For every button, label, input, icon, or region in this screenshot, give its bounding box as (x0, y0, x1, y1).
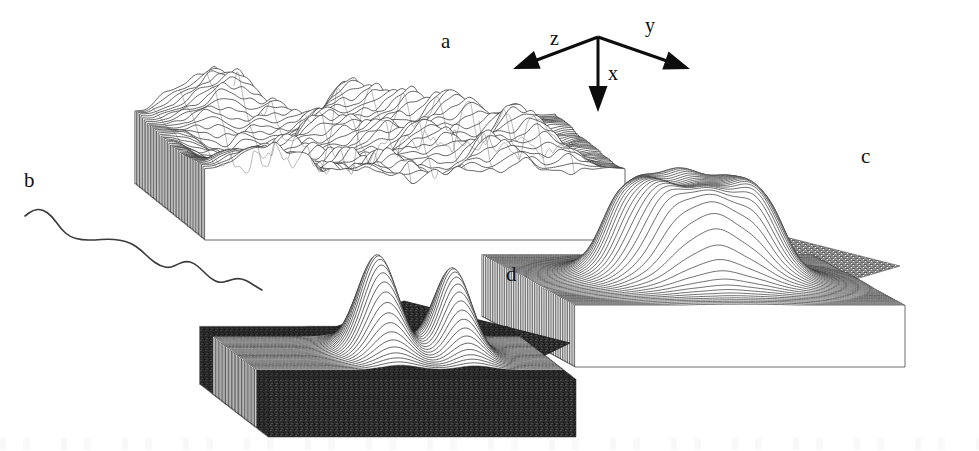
coordinate-axes-indicator: zyx (513, 14, 690, 112)
axis-x-arrowhead (589, 86, 608, 112)
mesh-row (268, 379, 576, 437)
panel-a-rough-surface (135, 67, 625, 240)
axis-y-arrowhead (662, 51, 690, 69)
surface-plots-layer: zyx (0, 0, 979, 451)
panel-label-b: b (24, 170, 35, 191)
mesh-row (575, 304, 905, 367)
axis-z-shaft (534, 37, 598, 61)
panel-label-d: d (506, 264, 517, 285)
panel-label-a: a (441, 31, 450, 52)
axis-label-z: z (550, 27, 559, 49)
axis-label-y: y (645, 14, 655, 37)
axis-z-arrowhead (513, 51, 541, 69)
axis-label-x: x (608, 62, 618, 84)
panel-label-c: c (861, 146, 870, 167)
scan-noise-artifact (0, 438, 979, 450)
figure-canvas: zyx a b c d (0, 0, 979, 451)
axis-y-shaft (598, 37, 669, 62)
